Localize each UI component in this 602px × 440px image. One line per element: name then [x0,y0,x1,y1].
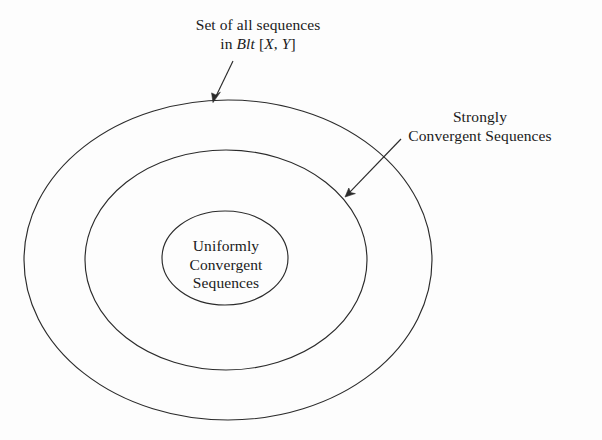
label-strongly-line-1: Strongly [358,108,602,127]
label-universe-comma: , [274,35,282,52]
label-strongly-convergent-sequences: Strongly Convergent Sequences [358,108,602,145]
label-universe-symbol-blt: Blt [237,35,255,52]
label-set-of-all-sequences: Set of all sequences in Blt [X, Y] [108,16,408,53]
label-uniformly-convergent-sequences: Uniformly Convergent Sequences [158,237,294,293]
diagram-canvas [0,0,602,440]
label-universe-bracket-close: ] [290,35,295,52]
label-uniformly-line-3: Sequences [158,274,294,293]
label-universe-line-1: Set of all sequences [108,16,408,35]
leader-to-outer-ellipse [212,61,233,103]
label-universe-prefix: in [220,35,236,52]
label-uniformly-line-1: Uniformly [158,237,294,256]
label-strongly-line-2: Convergent Sequences [358,127,602,146]
label-universe-var-x: X [264,35,274,52]
venn-diagram-figure: Set of all sequences in Blt [X, Y] Stron… [0,0,602,440]
label-universe-line-2: in Blt [X, Y] [108,35,408,54]
label-uniformly-line-2: Convergent [158,256,294,275]
